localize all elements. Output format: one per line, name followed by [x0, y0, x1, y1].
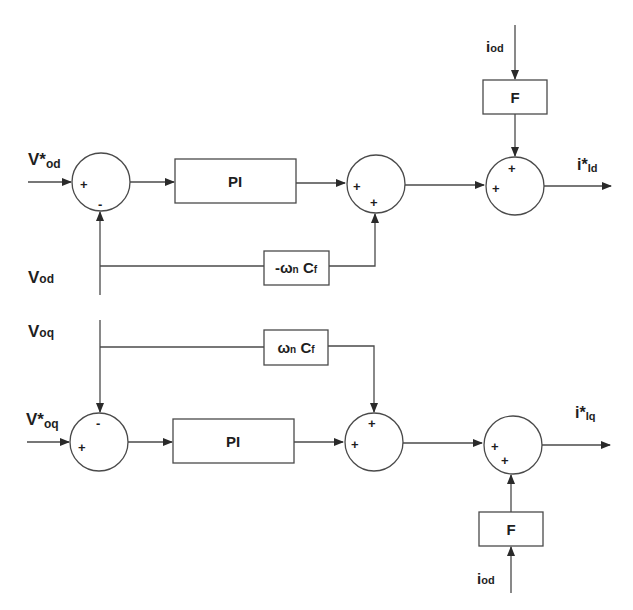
cross-gain-label-q: ωn Cf [277, 339, 315, 356]
q-axis-loop: Voq ωn Cf V*oq + - PI + + + + i*Iq [26, 320, 610, 593]
sign-plus: + [492, 181, 500, 196]
iref-lq-label: i*Iq [575, 404, 595, 422]
f-label-q: F [506, 521, 515, 538]
sign-plus: + [491, 439, 499, 454]
vod-label: Vod [28, 268, 54, 287]
block-diagram: V*od + - PI + + Vod -ωn Cf iod F [0, 0, 633, 610]
voq-label: Voq [28, 322, 54, 341]
f-label-d: F [510, 89, 519, 106]
sign-plus: + [368, 416, 376, 431]
sign-plus: + [370, 195, 378, 210]
pi-label-q: PI [226, 433, 240, 450]
sign-plus: + [508, 161, 516, 176]
iod-label-d: iod [486, 38, 504, 55]
sign-plus: + [353, 179, 361, 194]
sign-plus: + [78, 440, 86, 455]
sign-minus: - [98, 197, 102, 212]
iod-label-q: iod [477, 570, 495, 587]
vref-oq-label: V*oq [26, 410, 59, 431]
sign-plus: + [351, 437, 359, 452]
pi-label-d: PI [228, 173, 242, 190]
arrow-cross-to-sum-d [329, 214, 375, 266]
sign-plus: + [80, 177, 88, 192]
sign-plus: + [501, 453, 509, 468]
d-axis-loop: V*od + - PI + + Vod -ωn Cf iod F [28, 25, 611, 295]
arrow-cross-to-sum-q [328, 346, 374, 412]
iref-ld-label: i*Id [577, 156, 597, 174]
sign-minus: - [96, 416, 100, 431]
vref-od-label: V*od [28, 150, 61, 171]
